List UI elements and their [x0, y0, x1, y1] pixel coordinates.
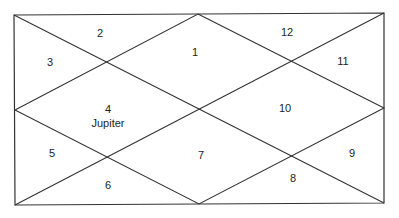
house-9-number: 9 [349, 148, 355, 159]
house-12-number: 12 [281, 27, 293, 38]
house-6-number: 6 [105, 180, 111, 191]
house-4-number: 4 [105, 104, 111, 115]
house-8-number: 8 [290, 173, 296, 184]
diagonal-top-right-to-bottom-left [15, 13, 384, 205]
house-1-number: 1 [192, 47, 198, 58]
house-3-number: 3 [47, 57, 53, 68]
house-2-number: 2 [97, 28, 103, 39]
house-5-number: 5 [49, 148, 55, 159]
house-11-number: 11 [337, 56, 348, 67]
house-10-number: 10 [279, 103, 291, 114]
house-4-planet-jupiter: Jupiter [91, 118, 124, 129]
chart-lines [0, 0, 399, 218]
house-7-number: 7 [198, 150, 204, 161]
